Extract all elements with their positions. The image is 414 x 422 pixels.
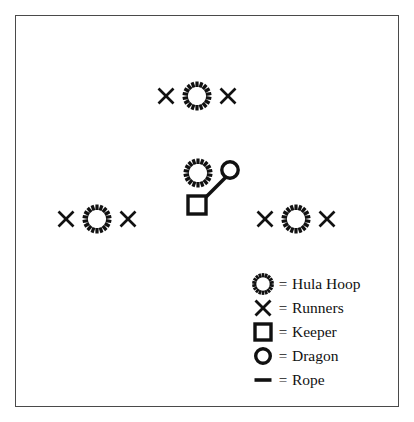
legend-row-runners: = Runners bbox=[250, 296, 395, 320]
hula-hoop-icon bbox=[83, 205, 112, 234]
legend-row-dragon: = Dragon bbox=[250, 344, 395, 368]
runner-x-icon bbox=[121, 212, 136, 227]
runner-x-icon bbox=[258, 212, 273, 227]
runner-x-icon bbox=[320, 212, 335, 227]
hula-hoop-icon bbox=[183, 82, 212, 111]
right-group bbox=[258, 205, 335, 234]
center-group bbox=[184, 159, 238, 215]
hula-hoop-icon bbox=[250, 272, 276, 296]
legend-label-keeper: Keeper bbox=[290, 324, 337, 340]
legend-equals-sign: = bbox=[276, 349, 290, 364]
runner-x-icon bbox=[221, 89, 236, 104]
legend-equals-sign: = bbox=[276, 373, 290, 388]
legend-equals-sign: = bbox=[276, 301, 290, 316]
keeper-square-icon bbox=[250, 320, 276, 344]
top-group bbox=[159, 82, 236, 111]
diagram-root: = Hula Hoop = Runners = Keeper bbox=[0, 0, 414, 422]
rope-line-icon bbox=[250, 368, 276, 392]
legend-label-rope: Rope bbox=[290, 372, 325, 388]
hula-hoop-icon bbox=[184, 159, 213, 188]
runner-x-icon bbox=[250, 296, 276, 320]
legend-equals-sign: = bbox=[276, 325, 290, 340]
legend-row-keeper: = Keeper bbox=[250, 320, 395, 344]
left-group bbox=[59, 205, 136, 234]
legend-row-hula-hoop: = Hula Hoop bbox=[250, 272, 395, 296]
legend: = Hula Hoop = Runners = Keeper bbox=[250, 272, 395, 392]
dragon-circle-icon bbox=[222, 162, 238, 178]
legend-row-rope: = Rope bbox=[250, 368, 395, 392]
runner-x-icon bbox=[59, 212, 74, 227]
keeper-square-icon bbox=[188, 196, 206, 214]
runner-x-icon bbox=[159, 89, 174, 104]
legend-label-runners: Runners bbox=[290, 300, 344, 316]
legend-label-hula-hoop: Hula Hoop bbox=[290, 276, 360, 292]
legend-equals-sign: = bbox=[276, 277, 290, 292]
legend-label-dragon: Dragon bbox=[290, 348, 339, 364]
hula-hoop-icon bbox=[282, 205, 311, 234]
dragon-circle-icon bbox=[250, 344, 276, 368]
